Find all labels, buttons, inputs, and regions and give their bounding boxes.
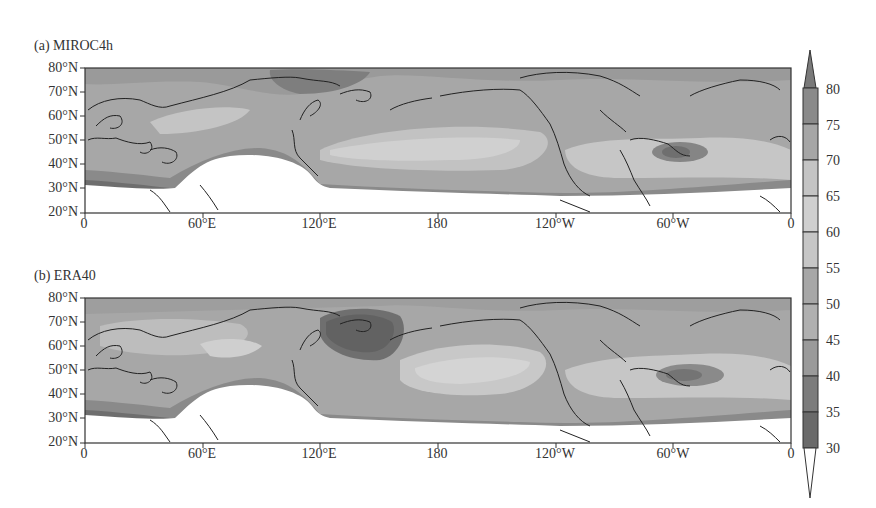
figure-graphics — [0, 0, 876, 508]
panel-a-map — [85, 68, 791, 213]
colorbar-extend-max — [804, 50, 816, 88]
colorbar-extend-min — [804, 448, 816, 498]
colorbar — [803, 50, 818, 498]
panel-b-map — [85, 298, 791, 443]
